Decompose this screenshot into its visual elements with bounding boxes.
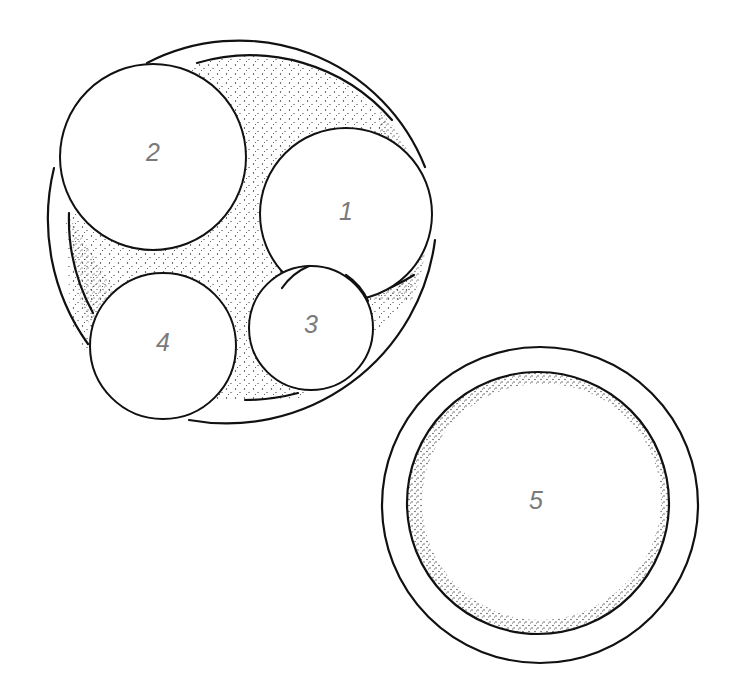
circle-3: 3 xyxy=(249,266,373,390)
diagram-canvas: 2 1 3 4 5 xyxy=(0,0,731,689)
circle-3-label: 3 xyxy=(304,310,318,338)
circle-5-label: 5 xyxy=(529,486,543,514)
circle-2: 2 xyxy=(60,64,246,250)
circle-4-label: 4 xyxy=(156,328,170,356)
circle-4: 4 xyxy=(90,273,236,419)
circle-2-label: 2 xyxy=(145,138,160,166)
single-group: 5 xyxy=(382,347,698,663)
circle-1-label: 1 xyxy=(339,197,353,225)
cluster-group: 2 1 3 4 xyxy=(48,41,435,424)
